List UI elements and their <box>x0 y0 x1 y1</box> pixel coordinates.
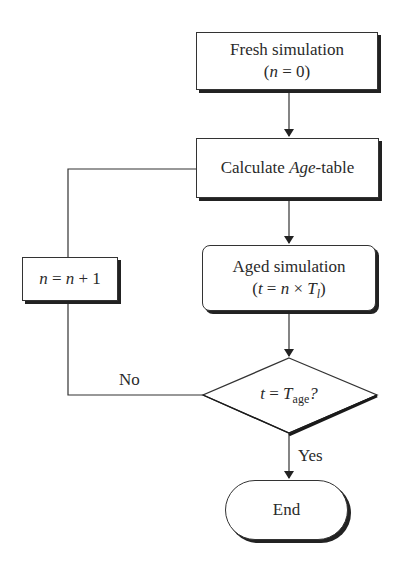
aged-simulation-box: Aged simulation (t = n × Tl) <box>202 245 376 311</box>
increment-n-box: n = n + 1 <box>22 257 118 301</box>
end-label: End <box>273 499 300 521</box>
calculate-age-table-box: Calculate Age-table <box>196 138 379 198</box>
aged-line1: Aged simulation <box>233 256 346 278</box>
increment-label: n = n + 1 <box>39 268 101 290</box>
yes-edge-label: Yes <box>298 446 323 466</box>
end-terminal: End <box>225 480 348 540</box>
decision-label: t = Tage? <box>229 384 349 404</box>
fresh-line1: Fresh simulation <box>230 39 344 61</box>
aged-line2: (t = n × Tl) <box>252 278 326 300</box>
fresh-simulation-box: Fresh simulation (n = 0) <box>196 32 378 90</box>
no-edge-label: No <box>119 370 140 390</box>
calc-label: Calculate Age-table <box>221 157 355 179</box>
fresh-line2: (n = 0) <box>264 61 310 83</box>
